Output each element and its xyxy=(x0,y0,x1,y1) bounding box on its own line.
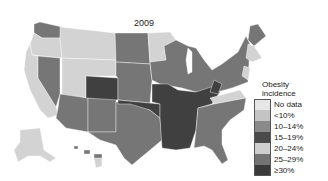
legend-swatch xyxy=(254,110,271,121)
legend-swatch xyxy=(254,165,271,176)
legend-label: <10% xyxy=(274,111,295,120)
legend-item: 15–19% xyxy=(254,132,326,143)
state-new-england xyxy=(246,44,262,62)
legend-item: No data xyxy=(254,99,326,110)
legend-label: No data xyxy=(274,100,302,109)
legend-item: 20–24% xyxy=(254,143,326,154)
state-montana-idaho xyxy=(60,27,116,60)
states xyxy=(14,22,266,168)
legend-label: 25–29% xyxy=(274,155,303,164)
state-southeast xyxy=(194,98,246,164)
state-arizona xyxy=(56,94,88,132)
state-maine xyxy=(248,24,266,46)
legend-swatch xyxy=(254,121,271,132)
state-dakotas xyxy=(115,33,150,64)
legend-swatch xyxy=(254,132,271,143)
legend-item: 10–14% xyxy=(254,121,326,132)
legend-label: ≥30% xyxy=(274,166,294,175)
state-alaska xyxy=(14,128,56,162)
state-new-mexico xyxy=(88,98,116,132)
legend-swatch xyxy=(254,143,271,154)
legend-label: 20–24% xyxy=(274,144,303,153)
legend-title-line2: incidence xyxy=(254,89,326,98)
legend-label: 15–19% xyxy=(274,133,303,142)
legend-item: 25–29% xyxy=(254,154,326,165)
state-hawaii-big xyxy=(94,158,102,168)
map-title: 2009 xyxy=(134,18,154,28)
legend-item: ≥30% xyxy=(254,165,326,176)
legend-title-line1: Obesity xyxy=(254,80,326,89)
legend-item: <10% xyxy=(254,110,326,121)
legend-items: No data <10% 10–14% 15–19% 20–24% 25–29%… xyxy=(254,99,326,176)
legend-swatch xyxy=(254,99,271,110)
legend: Obesity incidence No data <10% 10–14% 15… xyxy=(254,80,326,176)
legend-label: 10–14% xyxy=(274,122,303,131)
state-nebraska-kansas xyxy=(116,62,152,103)
state-colorado xyxy=(86,76,118,100)
legend-swatch xyxy=(254,154,271,165)
